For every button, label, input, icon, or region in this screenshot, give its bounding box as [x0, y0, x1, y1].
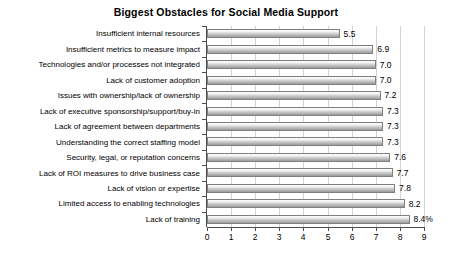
- category-label: Understanding the correct staffing model: [0, 138, 203, 147]
- value-axis-tick: [279, 227, 280, 231]
- value-axis-tick-label: 1: [222, 232, 240, 242]
- bar: [207, 122, 383, 131]
- value-axis-tick-label: 7: [367, 232, 385, 242]
- category-label: Lack of ROI measures to drive business c…: [0, 169, 203, 178]
- category-axis-tick: [202, 181, 207, 182]
- category-label: Limited access to enabling technologies: [0, 199, 203, 208]
- bar-value-label: 7.3: [387, 106, 399, 116]
- category-axis-tick: [202, 165, 207, 166]
- bar-value-label: 5.5: [344, 29, 356, 39]
- bar: [207, 137, 383, 146]
- category-label: Insufficient metrics to measure impact: [0, 45, 203, 54]
- value-axis-tick: [400, 227, 401, 231]
- bar: [207, 60, 376, 69]
- bar: [207, 153, 390, 162]
- bar-value-label: 6.9: [377, 44, 389, 54]
- value-axis-tick-label: 0: [198, 232, 216, 242]
- category-axis-tick: [202, 41, 207, 42]
- bar-value-label: 7.2: [385, 90, 397, 100]
- category-axis-tick: [202, 196, 207, 197]
- chart-title: Biggest Obstacles for Social Media Suppo…: [0, 6, 452, 18]
- bar-value-label: 7.8: [399, 183, 411, 193]
- value-axis-tick-label: 3: [270, 232, 288, 242]
- category-label: Lack of customer adoption: [0, 76, 203, 85]
- bar: [207, 107, 383, 116]
- bar: [207, 215, 410, 224]
- value-axis-line: [207, 227, 425, 228]
- category-label: Lack of agreement between departments: [0, 122, 203, 131]
- value-axis-tick: [255, 227, 256, 231]
- category-axis-tick: [202, 134, 207, 135]
- bar: [207, 184, 395, 193]
- bar: [207, 45, 373, 54]
- category-axis-tick: [202, 88, 207, 89]
- value-axis-tick-label: 5: [319, 232, 337, 242]
- category-label: Insufficient internal resources: [0, 29, 203, 38]
- gridline: [400, 26, 401, 227]
- bar: [207, 29, 340, 38]
- bar-chart: Biggest Obstacles for Social Media Suppo…: [0, 0, 452, 263]
- category-axis-tick: [202, 150, 207, 151]
- gridline: [424, 26, 425, 227]
- bar-value-label: 8.4%: [414, 214, 433, 224]
- value-axis-tick-label: 9: [415, 232, 433, 242]
- category-label: Lack of executive sponsorship/support/bu…: [0, 107, 203, 116]
- category-axis-tick: [202, 103, 207, 104]
- bar-value-label: 7.3: [387, 121, 399, 131]
- bar: [207, 76, 376, 85]
- value-axis-tick: [424, 227, 425, 231]
- value-axis-tick-label: 4: [294, 232, 312, 242]
- bar: [207, 91, 381, 100]
- value-axis-tick-label: 2: [246, 232, 264, 242]
- value-axis-tick: [352, 227, 353, 231]
- bar-value-label: 7.6: [394, 152, 406, 162]
- category-axis-tick: [202, 212, 207, 213]
- bar-value-label: 7.0: [380, 60, 392, 70]
- category-label: Technologies and/or processes not integr…: [0, 60, 203, 69]
- category-axis-tick: [202, 72, 207, 73]
- value-axis-tick: [231, 227, 232, 231]
- value-axis-tick-label: 6: [343, 232, 361, 242]
- category-axis-tick: [202, 119, 207, 120]
- category-label: Issues with ownership/lack of ownership: [0, 91, 203, 100]
- value-axis-tick: [303, 227, 304, 231]
- bar-value-label: 7.7: [397, 168, 409, 178]
- value-axis-tick: [207, 227, 208, 231]
- bar-value-label: 8.2: [409, 199, 421, 209]
- bar: [207, 168, 393, 177]
- bar-value-label: 7.0: [380, 75, 392, 85]
- category-label: Security, legal, or reputation concerns: [0, 153, 203, 162]
- bar: [207, 199, 405, 208]
- value-axis-tick: [376, 227, 377, 231]
- category-label: Lack of vision or expertise: [0, 184, 203, 193]
- value-axis-tick: [328, 227, 329, 231]
- category-label: Lack of training: [0, 215, 203, 224]
- category-axis-tick: [202, 26, 207, 27]
- value-axis-tick-label: 8: [391, 232, 409, 242]
- category-axis-tick: [202, 57, 207, 58]
- bar-value-label: 7.3: [387, 137, 399, 147]
